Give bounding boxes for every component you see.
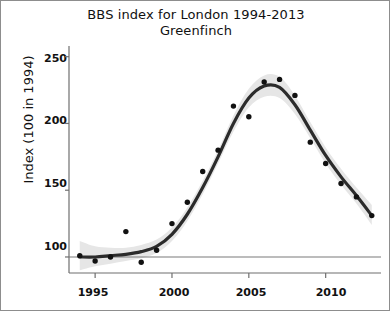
data-point [200, 169, 205, 174]
data-point [139, 260, 144, 265]
data-point [92, 258, 97, 263]
data-point [338, 181, 343, 186]
data-point [231, 103, 236, 108]
data-point [108, 254, 113, 259]
confidence-band [80, 74, 372, 270]
data-point [277, 77, 282, 82]
data-point [323, 161, 328, 166]
data-point [308, 139, 313, 144]
confidence-band-group [80, 74, 372, 270]
data-point [215, 147, 220, 152]
chart-figure: BBS index for London 1994-2013 Greenfinc… [0, 0, 390, 311]
data-point [354, 194, 359, 199]
data-point [369, 213, 374, 218]
data-point [154, 248, 159, 253]
plot-canvas [1, 1, 390, 311]
data-point [123, 229, 128, 234]
data-point [185, 200, 190, 205]
data-point [261, 79, 266, 84]
data-points [77, 77, 374, 265]
data-point [169, 221, 174, 226]
data-point [77, 253, 82, 258]
data-point [246, 114, 251, 119]
data-point [292, 93, 297, 98]
